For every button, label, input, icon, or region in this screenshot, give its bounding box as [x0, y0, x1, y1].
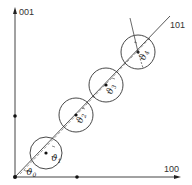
- arrow-right-icon: [174, 175, 181, 179]
- texture-diagram: 001 100 101 ϑ0 ϑ1 ϑ2: [0, 0, 192, 185]
- axis-101-label: 101: [170, 20, 185, 30]
- arrow-up-icon: [13, 7, 17, 14]
- theta-0-label: ϑ0: [26, 167, 36, 178]
- angle-arc-1: [52, 146, 55, 147]
- axis-001-label: 001: [19, 7, 34, 17]
- theta-1-label: ϑ1: [51, 153, 61, 164]
- angle-arc-3: [112, 78, 115, 79]
- axis-001-dot: [13, 114, 17, 118]
- circle-2: [59, 98, 93, 132]
- axis-101: [15, 16, 170, 177]
- origin-dot: [13, 175, 17, 179]
- theta-4-label: ϑ4: [137, 49, 150, 62]
- circle-3: [89, 68, 123, 102]
- axis-100-label: 100: [164, 164, 179, 174]
- dash-line: [20, 38, 150, 174]
- axis-100-dot: [75, 175, 79, 179]
